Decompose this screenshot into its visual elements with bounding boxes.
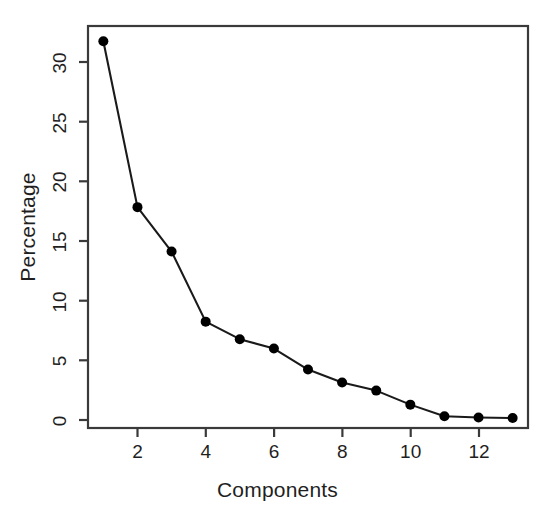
data-point [235, 334, 245, 344]
data-point [405, 400, 415, 410]
x-axis-tick-marks [138, 428, 480, 437]
y-axis-title: Percentage [16, 172, 40, 281]
x-tick-label-12: 12 [459, 441, 499, 463]
data-point [474, 412, 484, 422]
x-tick-label-2: 2 [118, 441, 158, 463]
x-axis-title: Components [0, 478, 555, 502]
data-point [371, 386, 381, 396]
data-point [132, 202, 142, 212]
data-point [439, 411, 449, 421]
y-axis-title-wrapper: Percentage [0, 0, 56, 454]
x-tick-label-4: 4 [186, 441, 226, 463]
y-axis-tick-marks [79, 62, 88, 420]
data-point [508, 413, 518, 423]
series-line [103, 41, 512, 418]
data-point [98, 36, 108, 46]
data-point [303, 365, 313, 375]
scree-plot-figure: 0 5 10 15 20 25 30 2 4 6 8 10 12 Percent… [0, 0, 555, 524]
series-data-points [98, 36, 517, 423]
data-point [337, 377, 347, 387]
data-point [167, 247, 177, 257]
x-tick-label-10: 10 [391, 441, 431, 463]
data-point [269, 344, 279, 354]
x-tick-label-8: 8 [322, 441, 362, 463]
x-tick-label-6: 6 [254, 441, 294, 463]
data-point [201, 317, 211, 327]
